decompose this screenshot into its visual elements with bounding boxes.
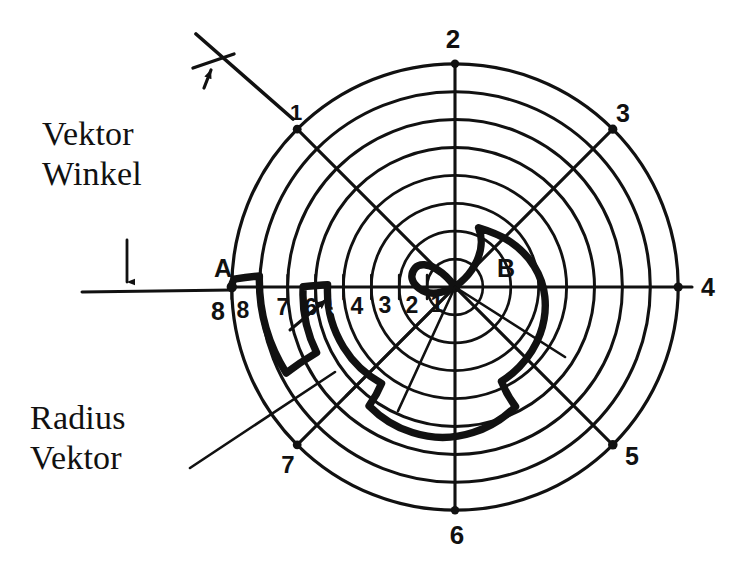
node-outer-7 <box>293 440 302 449</box>
node-outer-4 <box>674 282 683 291</box>
scale-label-5: 5 <box>331 293 344 319</box>
reference-baseline-group <box>82 240 232 292</box>
scale-label-6: 6 <box>305 294 318 320</box>
point-label-b: B <box>497 254 515 282</box>
outer-label-3: 3 <box>616 99 630 127</box>
spiral-construction-diagram: 1 2 3 4 5 6 7 8 8 7 6 5 4 3 2 1 A B <box>0 0 745 572</box>
reference-baseline <box>82 290 232 292</box>
outer-label-1: 1 <box>290 100 302 125</box>
radius-vektor-label: Radius Vektor <box>30 398 126 478</box>
outer-label-7: 7 <box>281 451 294 478</box>
vektor-winkel-leader <box>193 34 293 119</box>
scale-label-1: 1 <box>431 291 444 317</box>
figure-canvas: 1 2 3 4 5 6 7 8 8 7 6 5 4 3 2 1 A B Vekt… <box>0 0 745 572</box>
node-outer-2 <box>451 60 459 68</box>
vektor-winkel-leader-line <box>196 34 293 119</box>
vektor-winkel-arrow <box>204 70 211 88</box>
outer-label-2: 2 <box>446 24 460 54</box>
node-outer-1 <box>293 125 302 134</box>
radial-scale-labels: 8 7 6 5 4 3 2 1 <box>237 291 444 323</box>
node-outer-6 <box>451 506 459 514</box>
scale-label-3: 3 <box>379 292 392 318</box>
point-label-a: A <box>214 254 232 282</box>
node-outer-5 <box>608 440 618 450</box>
scale-label-7: 7 <box>277 294 290 320</box>
scale-label-4: 4 <box>351 293 364 319</box>
outer-label-8: 8 <box>211 297 225 325</box>
scale-label-8: 8 <box>237 297 250 323</box>
outer-label-5: 5 <box>625 442 639 470</box>
scale-label-2: 2 <box>406 292 419 318</box>
outer-label-6: 6 <box>450 520 464 550</box>
vektor-winkel-label: Vektor Winkel <box>42 114 142 194</box>
outer-label-4: 4 <box>701 273 715 301</box>
